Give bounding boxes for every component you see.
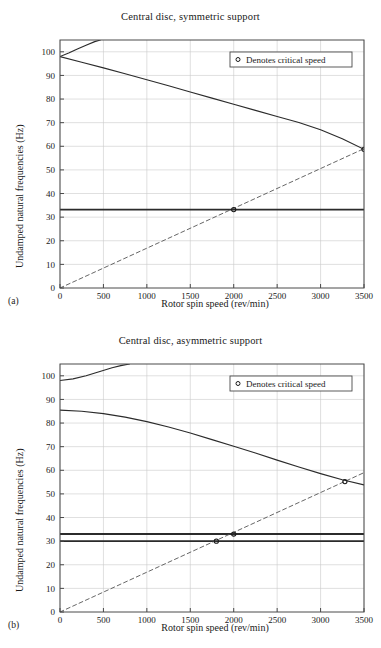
- svg-text:60: 60: [46, 465, 56, 475]
- svg-text:0: 0: [51, 283, 56, 293]
- svg-text:20: 20: [46, 236, 56, 246]
- svg-text:40: 40: [46, 189, 56, 199]
- y-axis-label-b: Undamped natural frequencies (Hz): [14, 448, 25, 592]
- svg-text:30: 30: [46, 536, 56, 546]
- svg-text:30: 30: [46, 212, 56, 222]
- svg-text:70: 70: [46, 442, 56, 452]
- svg-text:80: 80: [46, 94, 56, 104]
- plot-area-a: 0500100015002000250030003500010203040506…: [0, 0, 381, 324]
- svg-text:10: 10: [46, 260, 56, 270]
- svg-text:80: 80: [46, 418, 56, 428]
- svg-text:Denotes critical speed: Denotes critical speed: [246, 55, 326, 65]
- svg-text:50: 50: [46, 489, 56, 499]
- svg-text:70: 70: [46, 118, 56, 128]
- chart-svg-a: 0500100015002000250030003500010203040506…: [0, 0, 381, 324]
- y-axis-label-a: Undamped natural frequencies (Hz): [14, 124, 25, 268]
- figure-panel-b: Central disc, asymmetric support 0500100…: [0, 324, 381, 648]
- plot-area-b: 0500100015002000250030003500010203040506…: [0, 324, 381, 648]
- x-axis-label-b: Rotor spin speed (rev/min): [60, 622, 370, 633]
- svg-text:90: 90: [46, 395, 56, 405]
- svg-text:20: 20: [46, 560, 56, 570]
- svg-text:40: 40: [46, 513, 56, 523]
- svg-text:50: 50: [46, 165, 56, 175]
- svg-text:Denotes critical speed: Denotes critical speed: [246, 379, 326, 389]
- svg-text:0: 0: [51, 607, 56, 617]
- panel-label-a: (a): [8, 296, 19, 306]
- panel-label-b: (b): [8, 620, 19, 630]
- figure-panel-a: Central disc, symmetric support 05001000…: [0, 0, 381, 324]
- svg-text:100: 100: [42, 47, 56, 57]
- svg-text:60: 60: [46, 141, 56, 151]
- svg-text:100: 100: [42, 371, 56, 381]
- svg-text:10: 10: [46, 584, 56, 594]
- x-axis-label-a: Rotor spin speed (rev/min): [60, 298, 370, 309]
- chart-svg-b: 0500100015002000250030003500010203040506…: [0, 324, 381, 648]
- svg-text:90: 90: [46, 71, 56, 81]
